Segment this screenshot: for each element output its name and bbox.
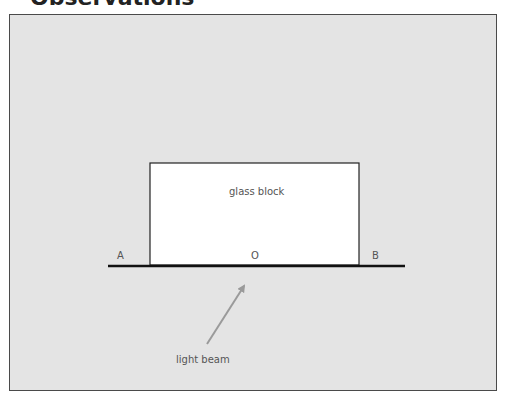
glass-block-label: glass block (229, 186, 284, 197)
refraction-diagram (0, 0, 506, 399)
point-o-label: O (251, 250, 259, 261)
point-a-label: A (117, 250, 124, 261)
point-b-label: B (372, 250, 379, 261)
light-beam-arrow (207, 286, 244, 344)
light-beam-label: light beam (176, 354, 230, 365)
